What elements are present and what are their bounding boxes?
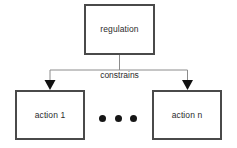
node-action-1: action 1 <box>15 90 85 140</box>
node-action-n: action n <box>152 90 222 140</box>
node-action-1-label: action 1 <box>35 111 66 120</box>
node-action-n-label: action n <box>172 111 203 120</box>
node-regulation-label: regulation <box>100 25 138 34</box>
diagram-canvas: regulation constrains action 1 action n <box>0 0 237 148</box>
arrowhead-icon-action-1 <box>45 80 56 90</box>
ellipsis-indicator <box>99 112 137 124</box>
node-regulation: regulation <box>84 4 155 55</box>
arrowhead-icon-action-n <box>182 80 193 90</box>
ellipsis-dot <box>99 115 106 122</box>
edge-label-constrains: constrains <box>84 71 155 80</box>
ellipsis-dot <box>130 115 137 122</box>
ellipsis-dot <box>115 115 122 122</box>
